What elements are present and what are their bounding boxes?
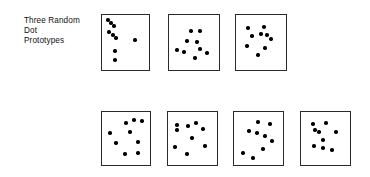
- dot: [114, 36, 117, 39]
- prototypes-caption: Three Random Dot Prototypes: [24, 16, 98, 47]
- prototype-3-panel: [235, 14, 287, 71]
- dot: [114, 141, 117, 144]
- dot: [269, 37, 272, 40]
- dot: [324, 121, 327, 124]
- dot: [175, 123, 178, 126]
- dot: [311, 122, 314, 125]
- distortion-4-panel: [300, 111, 351, 166]
- dot: [201, 127, 204, 130]
- dot: [195, 40, 198, 43]
- dot: [124, 121, 127, 124]
- dot: [136, 140, 139, 143]
- dot: [313, 128, 316, 131]
- dot: [321, 146, 324, 149]
- dot: [113, 58, 116, 61]
- dot: [247, 129, 250, 132]
- dot: [107, 30, 110, 33]
- prototype-2-panel: [168, 14, 220, 71]
- dot: [259, 32, 262, 35]
- dot: [173, 145, 176, 148]
- dot: [123, 152, 126, 155]
- dot: [136, 151, 139, 154]
- dot: [175, 128, 178, 131]
- dot: [198, 47, 201, 50]
- dot: [312, 144, 315, 147]
- dot: [255, 131, 258, 134]
- dot: [193, 56, 196, 59]
- dot: [140, 119, 143, 122]
- dot: [185, 152, 188, 155]
- dot: [241, 151, 244, 154]
- dot: [256, 53, 259, 56]
- dot: [321, 138, 324, 141]
- dot: [113, 49, 116, 52]
- dot: [250, 34, 253, 37]
- dot: [251, 156, 254, 159]
- dot: [108, 131, 111, 134]
- dot: [261, 147, 264, 150]
- distortion-1-panel: [101, 111, 151, 166]
- distortion-3-panel: [233, 111, 284, 166]
- prototype-1-panel: [101, 14, 150, 71]
- dot: [205, 51, 208, 54]
- dot: [263, 46, 266, 49]
- dot: [112, 24, 115, 27]
- dot: [263, 134, 266, 137]
- dot-prototype-figure: Three Random Dot Prototypes Four Distort…: [0, 0, 370, 177]
- dot: [133, 38, 136, 41]
- dot: [256, 120, 259, 123]
- dot: [246, 26, 249, 29]
- dot: [268, 122, 271, 125]
- dot: [245, 44, 248, 47]
- dot: [190, 136, 193, 139]
- dot: [189, 29, 192, 32]
- dot: [186, 124, 189, 127]
- dot: [317, 130, 320, 133]
- dot: [132, 118, 135, 121]
- dot: [265, 33, 268, 36]
- dot: [182, 50, 185, 53]
- dot: [270, 139, 273, 142]
- dot: [128, 130, 131, 133]
- dot: [194, 121, 197, 124]
- dot: [198, 29, 201, 32]
- distortion-2-panel: [167, 111, 218, 166]
- dot: [185, 39, 188, 42]
- dot: [334, 130, 337, 133]
- dot: [203, 144, 206, 147]
- dot: [262, 25, 265, 28]
- dot: [330, 148, 333, 151]
- dot: [175, 48, 178, 51]
